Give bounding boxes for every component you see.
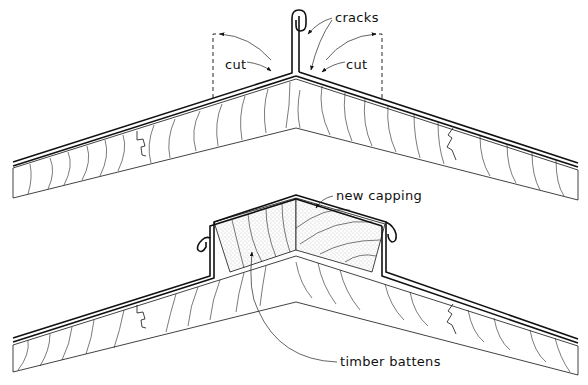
label-cut-right: cut: [346, 57, 367, 72]
label-cracks: cracks: [335, 10, 379, 25]
existing-capping: [13, 10, 578, 167]
label-cut-left: cut: [225, 57, 246, 72]
left-roof-slope-lower: [13, 256, 296, 372]
ridge-capping-diagram: cracks cut cut: [0, 0, 588, 385]
cracks-leaders: [308, 18, 332, 70]
top-panel-existing-ridge: cracks cut cut: [13, 10, 578, 200]
timber-battens: [214, 198, 385, 272]
left-roof-slope: [13, 79, 296, 198]
bottom-panel-new-capping: new capping timber battens: [13, 188, 578, 375]
right-roof-slope: [296, 79, 578, 200]
timber-battens-leader: [251, 252, 337, 362]
label-new-capping: new capping: [336, 188, 422, 203]
label-timber-battens: timber battens: [340, 354, 441, 369]
